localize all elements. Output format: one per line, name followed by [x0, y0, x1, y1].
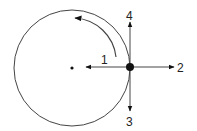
label-1: 1: [101, 53, 108, 67]
label-4: 4: [126, 9, 133, 23]
center-dot: [70, 66, 73, 69]
label-2: 2: [177, 61, 184, 75]
circular-motion-diagram: 1 2 3 4: [0, 0, 197, 131]
object-dot: [126, 63, 134, 71]
label-3: 3: [126, 115, 133, 129]
